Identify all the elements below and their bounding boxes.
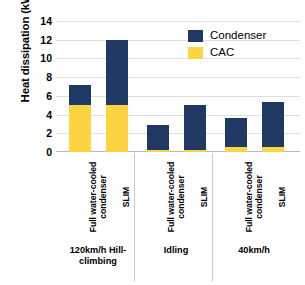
x-category-label-1: Full water-cooled condenser	[89, 153, 103, 241]
y-tick-label: 0	[46, 147, 52, 158]
bar-segment-cac	[106, 105, 128, 152]
y-tick-label: 10	[40, 53, 52, 64]
bar-segment-condenser	[184, 105, 206, 149]
x-category-label-5: Full water-cooled condenser	[245, 153, 259, 241]
chart-legend: Condenser CAC	[188, 30, 266, 64]
group-separator	[212, 153, 213, 281]
bar-4[interactable]	[184, 105, 206, 152]
legend-label-cac: CAC	[210, 47, 234, 59]
y-axis-tick-labels: 14 12 10 8 6 4 2 0	[30, 21, 52, 152]
bar-segment-cac	[262, 147, 284, 152]
bar-segment-cac	[184, 150, 206, 152]
x-group-label-1: 120km/h Hill- climbing	[60, 245, 136, 267]
y-tick-label: 8	[46, 72, 52, 83]
y-tick-label: 4	[46, 109, 52, 120]
x-axis-group-labels: 120km/h Hill- climbingIdling40km/h	[56, 245, 300, 281]
bar-segment-condenser	[225, 118, 247, 147]
bar-3[interactable]	[147, 125, 169, 152]
bar-segment-condenser	[106, 40, 128, 105]
x-group-label-2: Idling	[145, 245, 207, 256]
legend-label-condenser: Condenser	[210, 30, 266, 42]
y-tick-label: 12	[40, 34, 52, 45]
legend-item-cac: CAC	[188, 47, 266, 59]
y-tick-label: 2	[46, 128, 52, 139]
bar-5[interactable]	[225, 118, 247, 152]
bar-segment-condenser	[69, 85, 91, 106]
x-group-label-3: 40km/h	[223, 245, 285, 256]
bar-segment-condenser	[262, 102, 284, 147]
x-axis-category-labels: Full water-cooled condenserSLIMFull wate…	[56, 153, 300, 243]
y-tick-label: 6	[46, 91, 52, 102]
bar-2[interactable]	[106, 40, 128, 152]
bar-segment-cac	[69, 105, 91, 152]
bar-1[interactable]	[69, 85, 91, 152]
legend-item-condenser: Condenser	[188, 30, 266, 42]
bar-segment-cac	[147, 150, 169, 152]
cac-swatch-icon	[188, 47, 203, 59]
group-separator	[134, 153, 135, 281]
bar-segment-cac	[225, 147, 247, 152]
x-category-label-3: Full water-cooled condenser	[167, 153, 181, 241]
x-category-label-6: SLIM	[278, 153, 292, 241]
stacked-bar-chart: Heat dissipation (kW) 14 12 10 8 6 4 2 0…	[0, 0, 305, 285]
bar-segment-condenser	[147, 125, 169, 150]
y-tick-label: 14	[40, 16, 52, 27]
bar-6[interactable]	[262, 102, 284, 152]
condenser-swatch-icon	[188, 30, 203, 42]
